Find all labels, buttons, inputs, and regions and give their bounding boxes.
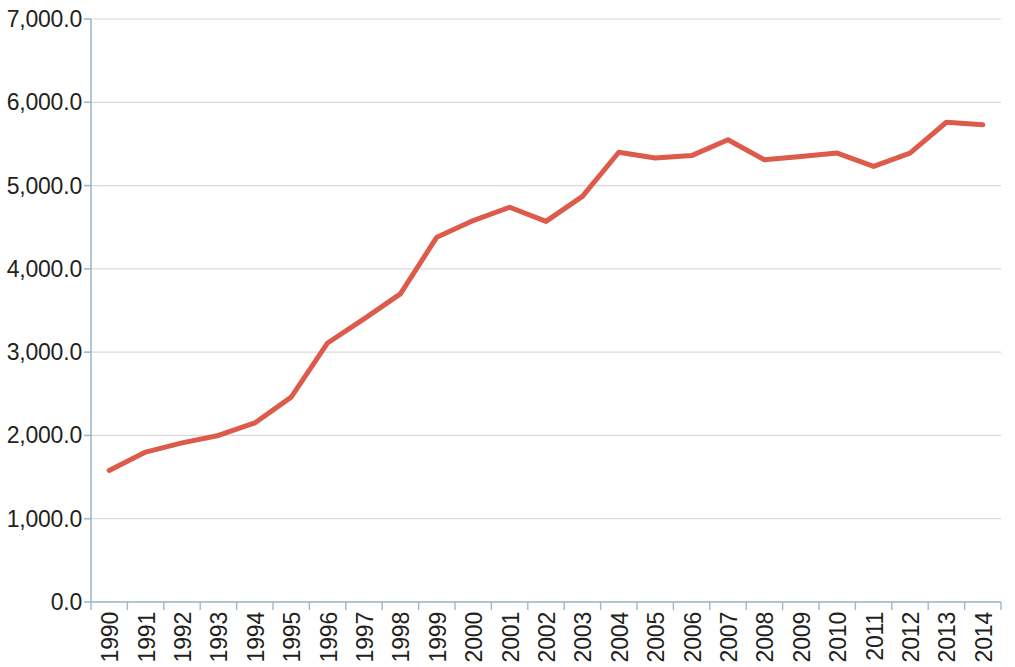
x-axis-tick-label: 1991 xyxy=(134,612,161,662)
x-axis-tick-label: 1990 xyxy=(97,612,124,662)
y-axis-tick-label: 7,000.0 xyxy=(7,6,82,33)
x-axis-tick-label: 2013 xyxy=(934,612,961,662)
x-axis-tick-label: 2007 xyxy=(716,612,743,662)
x-axis-tick-label: 2009 xyxy=(789,612,816,662)
x-axis-tick-label: 1999 xyxy=(425,612,452,662)
x-axis-tick-label: 1998 xyxy=(388,612,415,662)
x-axis-tick-label: 2003 xyxy=(570,612,597,662)
y-axis-tick-label: 2,000.0 xyxy=(7,422,82,449)
y-axis-tick-label: 1,000.0 xyxy=(7,505,82,532)
x-axis-tick-label: 2011 xyxy=(862,612,889,661)
x-axis-tick-label: 1996 xyxy=(316,612,343,662)
x-axis-tick-label: 2014 xyxy=(971,612,998,662)
x-axis-tick-label: 2008 xyxy=(752,612,779,662)
x-axis-tick-label: 1993 xyxy=(206,612,233,662)
y-axis-tick-label: 0.0 xyxy=(51,589,82,616)
gridlines xyxy=(91,19,1001,602)
x-axis-tick-label: 2012 xyxy=(898,612,925,662)
x-axis-ticks xyxy=(91,602,1001,610)
y-axis-tick-label: 3,000.0 xyxy=(7,339,82,366)
x-axis-tick-label: 1997 xyxy=(352,612,379,662)
chart-plot-area xyxy=(0,0,1015,667)
x-axis-tick-label: 2006 xyxy=(680,612,707,662)
y-axis-tick-label: 5,000.0 xyxy=(7,172,82,199)
line-chart: 0.01,000.02,000.03,000.04,000.05,000.06,… xyxy=(0,0,1015,667)
x-axis-tick-label: 2001 xyxy=(498,612,525,662)
y-axis-ticks xyxy=(84,19,91,602)
x-axis-tick-label: 2002 xyxy=(534,612,561,662)
x-axis-tick-label: 2010 xyxy=(825,612,852,662)
y-axis-tick-label: 6,000.0 xyxy=(7,89,82,116)
x-axis-tick-label: 1995 xyxy=(279,612,306,662)
data-series-line xyxy=(109,122,983,470)
x-axis-tick-label: 1994 xyxy=(243,612,270,662)
x-axis-tick-label: 2005 xyxy=(643,612,670,662)
x-axis-tick-label: 2004 xyxy=(607,612,634,662)
y-axis-tick-label: 4,000.0 xyxy=(7,255,82,282)
x-axis-tick-label: 2000 xyxy=(461,612,488,662)
x-axis-tick-label: 1992 xyxy=(170,612,197,662)
